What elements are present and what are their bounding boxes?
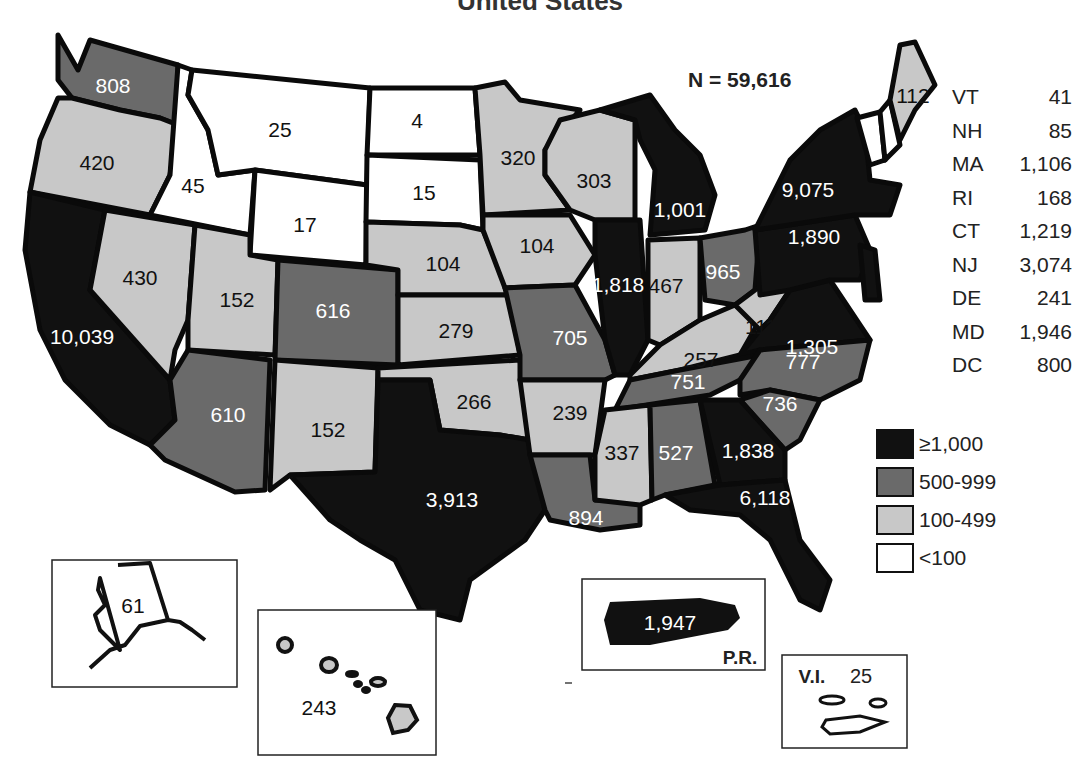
label-nv: 430 <box>122 266 157 289</box>
northeast-state-list: VT41 NH85 MA1,106 RI168 CT1,219 NJ3,074 … <box>952 80 1072 382</box>
legend: ≥1,000 500-999 100-499 <100 <box>876 425 996 577</box>
label-mi: 1,001 <box>654 198 707 221</box>
map-canvas: 808 420 10,039 45 430 25 17 152 610 616 … <box>0 0 1080 771</box>
legend-swatch-500-999 <box>876 467 914 497</box>
puerto-rico-label: P.R. <box>723 647 758 668</box>
label-fl: 6,118 <box>740 486 791 509</box>
hawaii-oahu <box>321 658 337 672</box>
list-item: NH85 <box>952 114 1072 148</box>
label-ut: 152 <box>219 288 254 311</box>
label-wa: 808 <box>95 74 130 97</box>
hawaii-kauai <box>278 638 292 652</box>
legend-swatch-under-100 <box>876 543 914 573</box>
label-la: 894 <box>568 506 603 529</box>
list-item: VT41 <box>952 80 1072 114</box>
label-or: 420 <box>79 151 114 174</box>
list-item: RI168 <box>952 181 1072 215</box>
label-tx: 3,913 <box>426 488 479 511</box>
state-nd[interactable] <box>367 88 480 155</box>
virgin-islands-value: 25 <box>850 665 872 687</box>
list-item: DE241 <box>952 281 1072 315</box>
list-item: CT1,219 <box>952 214 1072 248</box>
label-az: 610 <box>210 403 245 426</box>
vi-st-thomas <box>820 696 844 704</box>
legend-swatch-1000-plus <box>876 429 914 459</box>
label-id: 45 <box>181 174 204 197</box>
label-oh: 965 <box>705 260 740 283</box>
legend-item: 500-999 <box>876 463 996 501</box>
hawaii-lanai <box>355 682 361 686</box>
label-ca: 10,039 <box>50 325 114 348</box>
legend-item: ≥1,000 <box>876 425 996 463</box>
hawaii-kahoolawe <box>363 688 369 692</box>
label-sd: 15 <box>412 181 435 204</box>
label-mo: 705 <box>552 326 587 349</box>
label-wv: 111 <box>745 315 777 338</box>
hawaii-value: 243 <box>301 696 336 719</box>
label-tn: 751 <box>670 370 705 393</box>
label-ne: 104 <box>425 252 460 275</box>
label-il: 1,818 <box>592 273 645 296</box>
label-ga: 1,838 <box>722 439 775 462</box>
state-nj[interactable] <box>860 245 880 300</box>
label-co: 616 <box>315 299 350 322</box>
label-ar: 239 <box>552 401 587 424</box>
label-pa: 1,890 <box>788 225 841 248</box>
label-nc: 777 <box>785 350 820 373</box>
label-al: 527 <box>658 441 693 464</box>
vi-st-john <box>870 699 886 707</box>
label-ny: 9,075 <box>782 178 835 201</box>
us-choropleth-map: United States <box>0 0 1080 771</box>
virgin-islands-label: V.I. <box>799 666 826 687</box>
hawaii-maui <box>371 678 385 686</box>
label-wi: 303 <box>576 169 611 192</box>
label-ks: 279 <box>438 319 473 342</box>
label-me: 112 <box>896 84 929 107</box>
label-ia: 104 <box>519 234 554 257</box>
total-count: N = 59,616 <box>688 68 791 92</box>
label-mn: 320 <box>500 146 535 169</box>
label-ky: 257 <box>683 348 718 371</box>
hawaii-molokai <box>347 672 357 676</box>
legend-swatch-100-499 <box>876 505 914 535</box>
list-item: MD1,946 <box>952 315 1072 349</box>
legend-item: 100-499 <box>876 501 996 539</box>
list-item: MA1,106 <box>952 147 1072 181</box>
label-nd: 4 <box>411 109 423 132</box>
legend-item: <100 <box>876 539 996 577</box>
hawaii-inset-frame <box>258 610 436 755</box>
label-ok: 266 <box>456 390 491 413</box>
puerto-rico-value: 1,947 <box>644 611 697 634</box>
label-wy: 17 <box>293 213 316 236</box>
list-item: DC800 <box>952 348 1072 382</box>
list-item: NJ3,074 <box>952 248 1072 282</box>
label-in: 467 <box>648 274 683 297</box>
alaska-value: 61 <box>121 594 144 617</box>
label-ms: 337 <box>604 441 639 464</box>
label-sc: 736 <box>762 392 797 415</box>
label-nm: 152 <box>310 418 345 441</box>
label-mt: 25 <box>268 118 291 141</box>
